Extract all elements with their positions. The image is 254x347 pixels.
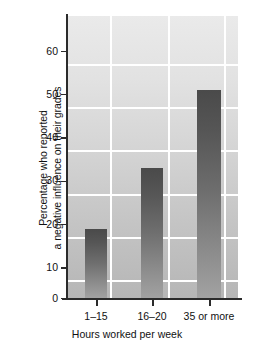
gridline-y-60 [68,64,238,66]
y-tick-20 [61,224,67,226]
x-tick-3 [209,299,211,306]
x-tick-label-1: 1–15 [84,310,107,322]
y-tick-label-30: 30 [18,175,58,185]
y-tick-label-50: 50 [18,89,58,99]
y-tick-0 [61,298,67,300]
bar-1-15 [85,229,107,298]
bar-chart: Percentage who reported a negative influ… [0,0,254,347]
y-axis-title-line-1: Percentage who reported [36,110,50,226]
gridline-x-2 [168,16,170,298]
y-tick-label-20: 20 [18,219,58,229]
y-tick-40 [61,137,67,139]
plot-area [68,16,238,298]
y-axis-line [66,14,68,300]
x-tick-label-3: 35 or more [184,310,235,322]
gridline-x-1 [110,16,112,298]
bar-16-20 [141,168,163,298]
x-tick-1 [96,299,98,306]
y-tick-label-10: 10 [18,262,58,272]
y-tick-10 [61,267,67,269]
y-tick-label-40: 40 [18,132,58,142]
x-tick-label-2: 16–20 [137,310,166,322]
bar-35-or-more [197,90,221,298]
x-tick-2 [152,299,154,306]
y-tick-50 [61,94,67,96]
gridline-x-3 [224,16,226,298]
y-tick-60 [61,51,67,53]
x-axis-title: Hours worked per week [0,328,254,340]
y-tick-label-0: 0 [18,293,58,303]
y-tick-label-60: 60 [18,46,58,56]
y-tick-30 [61,181,67,183]
